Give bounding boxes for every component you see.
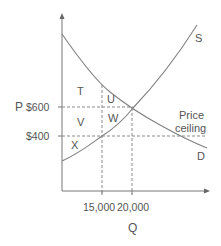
region-label-t: T bbox=[77, 86, 84, 97]
demand-label: D bbox=[197, 151, 205, 162]
y-axis-label: P bbox=[15, 101, 23, 113]
x-axis-arrow-icon bbox=[204, 189, 210, 194]
price-label-600: $600 bbox=[26, 102, 49, 113]
price-ceiling-label-line1: Price bbox=[179, 110, 204, 121]
region-label-w: W bbox=[108, 113, 118, 124]
x-axis-label: Q bbox=[128, 222, 137, 234]
supply-label: S bbox=[195, 33, 202, 44]
quantity-label-15000: 15,000 bbox=[83, 202, 115, 213]
price-ceiling-label-line2: ceiling bbox=[175, 123, 206, 134]
region-label-x: X bbox=[71, 140, 78, 151]
region-label-u: U bbox=[107, 94, 115, 105]
y-axis-arrow-icon bbox=[60, 13, 65, 19]
region-label-v: V bbox=[77, 117, 84, 128]
price-label-400: $400 bbox=[26, 131, 49, 142]
quantity-label-20000: 20,000 bbox=[117, 202, 149, 213]
